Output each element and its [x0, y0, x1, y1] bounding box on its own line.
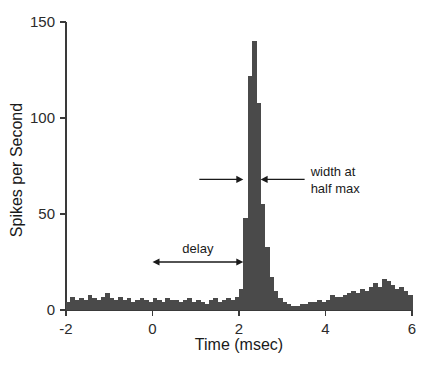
histogram-bar [174, 300, 179, 310]
histogram-bar [239, 289, 244, 310]
histogram-bar [282, 302, 287, 310]
histogram-bar [170, 300, 175, 310]
histogram-bar [109, 298, 114, 310]
histogram-bar [161, 302, 166, 310]
histogram-bar [101, 297, 106, 310]
histogram-bar [373, 283, 378, 310]
histogram-bar [226, 298, 231, 310]
histogram-bar [338, 297, 343, 310]
histogram-bar [269, 277, 274, 310]
annotation-label-delay: delay [182, 241, 214, 256]
y-tick-label: 0 [47, 301, 55, 318]
histogram-bar [105, 293, 110, 310]
histogram-bar [343, 295, 348, 310]
y-tick-label: 100 [30, 109, 55, 126]
histogram-bar [183, 300, 188, 310]
histogram-bar [222, 300, 227, 310]
histogram-bar [157, 300, 162, 310]
histogram-bar [79, 298, 84, 310]
histogram-bar [230, 300, 235, 310]
histogram-bar [209, 300, 214, 310]
histogram-bar [148, 302, 153, 310]
histogram-bar [274, 291, 279, 310]
histogram-bar [326, 300, 331, 310]
histogram-bar [390, 285, 395, 310]
histogram-bar [265, 247, 270, 310]
histogram-bar [70, 297, 75, 310]
histogram-bar [83, 300, 88, 310]
histogram-bar [360, 289, 365, 310]
histogram-figure: 050100150 -20246 delaywidth athalf max T… [0, 0, 427, 366]
histogram-bar [200, 302, 205, 310]
x-tick-label: 2 [235, 320, 243, 337]
histogram-bar [114, 300, 119, 310]
histogram-bar [135, 300, 140, 310]
histogram-bar [92, 298, 97, 310]
histogram-bar [165, 298, 170, 310]
histogram-bar [295, 306, 300, 310]
histogram-bar [127, 298, 132, 310]
x-tick-label: 4 [321, 320, 329, 337]
y-tick-label: 50 [38, 205, 55, 222]
histogram-bar [118, 297, 123, 310]
histogram-bar [235, 297, 240, 310]
histogram-bar [187, 298, 192, 310]
histogram-bar [291, 306, 296, 310]
histogram-bar [317, 300, 322, 310]
histogram-bar [395, 289, 400, 310]
histogram-bar [75, 300, 80, 310]
annotation-label-width-line1: width at [310, 164, 356, 179]
histogram-bar [66, 302, 71, 310]
x-axis-title: Time (msec) [195, 336, 283, 353]
x-tick-label: 6 [408, 320, 416, 337]
histogram-bar [278, 298, 283, 310]
histogram-bar [364, 291, 369, 310]
spike-histogram-chart: 050100150 -20246 delaywidth athalf max T… [0, 0, 427, 366]
histogram-bar [287, 304, 292, 310]
y-axis-title: Spikes per Second [8, 103, 25, 237]
y-tick-label: 150 [30, 13, 55, 30]
x-tick-label: 0 [148, 320, 156, 337]
histogram-bar [256, 103, 261, 310]
histogram-bar [217, 302, 222, 310]
annotation-label-width-line2: half max [311, 181, 361, 196]
x-tick-label: -2 [59, 320, 72, 337]
histogram-bar [131, 302, 136, 310]
histogram-bar [252, 41, 257, 310]
histogram-bar [88, 295, 93, 310]
histogram-bar [347, 293, 352, 310]
histogram-bar [304, 304, 309, 310]
histogram-bar [399, 287, 404, 310]
histogram-bar [308, 302, 313, 310]
histogram-bar [140, 298, 145, 310]
histogram-bar [213, 298, 218, 310]
histogram-bar [191, 302, 196, 310]
histogram-bar [330, 295, 335, 310]
histogram-bar [300, 304, 305, 310]
histogram-bar [96, 300, 101, 310]
histogram-bar [261, 204, 266, 310]
histogram-bar [356, 293, 361, 310]
histogram-bar [204, 304, 209, 310]
chart-background [0, 0, 427, 366]
histogram-bar [196, 300, 201, 310]
histogram-bar [178, 302, 183, 310]
histogram-bar [403, 291, 408, 310]
histogram-bar [313, 302, 318, 310]
histogram-bar [382, 279, 387, 310]
histogram-bar [386, 281, 391, 310]
histogram-bar [248, 76, 253, 310]
histogram-bar [334, 297, 339, 310]
histogram-bar [351, 291, 356, 310]
histogram-bar [377, 287, 382, 310]
histogram-bar [122, 300, 127, 310]
histogram-bar [369, 287, 374, 310]
histogram-bar [144, 300, 149, 310]
histogram-bar [243, 218, 248, 310]
histogram-bar [153, 298, 158, 310]
histogram-bar [321, 302, 326, 310]
histogram-bar [408, 295, 413, 310]
